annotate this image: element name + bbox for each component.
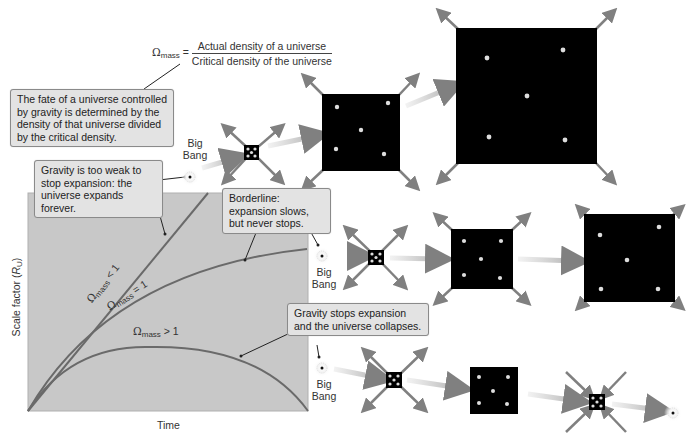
omega-mass-formula: Ωmass = Actual density of a universe Cri…: [152, 40, 332, 67]
fraction-denominator: Critical density of the universe: [192, 54, 332, 67]
callout-borderline: Borderline: expansion slows, but never s…: [222, 188, 331, 234]
universe-small-row1: [226, 128, 280, 180]
big-bang-label-row2: Big Bang: [309, 266, 339, 290]
big-bang-label-row3: Big Bang: [309, 378, 339, 402]
density-fraction: Actual density of a universe Critical de…: [192, 40, 332, 67]
y-axis-label: Scale factor (RU): [10, 242, 24, 352]
big-bang-label-row1: Big Bang: [180, 137, 210, 161]
diagram-graphics: [0, 0, 694, 443]
universe-large-row2: [580, 209, 680, 306]
big-bang-row1: [181, 168, 199, 186]
x-axis-label: Time: [157, 419, 180, 431]
callout-fate: The fate of a universe controlled by gra…: [10, 89, 174, 147]
big-bang-row3: [313, 359, 331, 377]
callout-too-weak: Gravity is too weak to stop expansion: t…: [34, 160, 163, 218]
fraction-numerator: Actual density of a universe: [192, 40, 332, 54]
universe-medium-row3: [470, 367, 518, 414]
omega-symbol: Ω: [152, 46, 161, 58]
big-bang-row2: [313, 247, 331, 265]
big-crunch: [664, 404, 682, 422]
curve-label-omega-gt-1: Ωmass > 1: [133, 325, 179, 339]
callout-collapse: Gravity stops expansion and the universe…: [287, 303, 429, 336]
universe-medium-row1: [306, 78, 415, 186]
universe-large-row1: [441, 13, 612, 180]
universe-medium-row2: [438, 217, 526, 301]
